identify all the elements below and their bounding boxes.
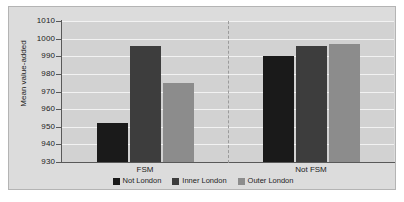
legend-entry: Inner London <box>172 177 226 185</box>
legend-entry: Not London <box>113 177 162 185</box>
y-axis-tick-label: 1010 <box>11 17 55 25</box>
x-axis-tick-label: FSM <box>105 165 185 174</box>
chart-panel: 10101000990980970960950940930 Mean value… <box>8 6 396 190</box>
y-axis-tick-label: 930 <box>11 158 55 166</box>
y-axis-tick-mark <box>56 56 61 57</box>
bar <box>163 83 194 162</box>
y-axis-tick-labels: 10101000990980970960950940930 <box>9 7 55 191</box>
y-axis-tick-mark <box>56 39 61 40</box>
chart-legend: Not LondonInner LondonOuter London <box>9 177 397 185</box>
bar <box>263 56 294 162</box>
legend-swatch <box>172 178 179 185</box>
chart-figure: 10101000990980970960950940930 Mean value… <box>0 0 404 202</box>
bar <box>296 46 327 162</box>
y-axis-tick-mark <box>56 162 61 163</box>
y-axis-tick-label: 950 <box>11 123 55 131</box>
y-axis-tick-mark <box>56 21 61 22</box>
y-axis-tick-mark <box>56 74 61 75</box>
bar <box>130 46 161 162</box>
x-axis-tick-label: Not FSM <box>271 165 351 174</box>
y-axis-tick-label: 940 <box>11 140 55 148</box>
y-axis-tick-mark <box>56 92 61 93</box>
legend-entry: Outer London <box>238 177 294 185</box>
legend-label: Not London <box>123 177 162 185</box>
legend-swatch <box>238 178 245 185</box>
bar <box>329 44 360 162</box>
legend-label: Outer London <box>248 177 294 185</box>
legend-label: Inner London <box>182 177 226 185</box>
y-axis-tick-mark <box>56 109 61 110</box>
y-axis-tick-mark <box>56 127 61 128</box>
bar <box>97 123 128 162</box>
group-divider-line <box>228 21 229 163</box>
legend-swatch <box>113 178 120 185</box>
y-axis-title: Mean value-added <box>19 29 28 119</box>
y-axis-tick-mark <box>56 144 61 145</box>
